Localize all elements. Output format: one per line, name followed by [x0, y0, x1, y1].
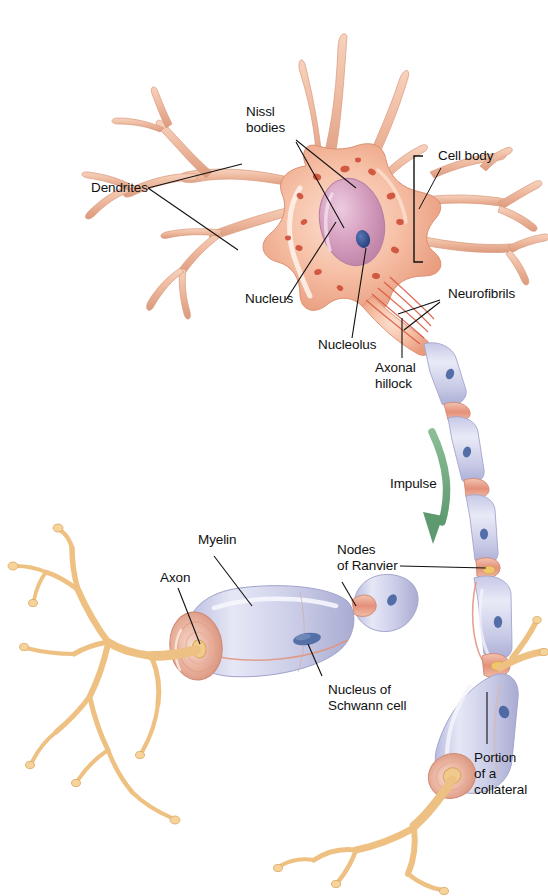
- schwann-cell-nucleus: [480, 529, 488, 540]
- myelin-segment: [424, 343, 466, 406]
- label-nodes-of-ranvier: Nodes of Ranvier: [337, 542, 398, 574]
- leader-dendrites-2: [148, 188, 238, 250]
- dendrite-branch: [498, 181, 542, 208]
- label-nucleolus: Nucleolus: [318, 337, 376, 353]
- dendrite-branch: [112, 118, 164, 132]
- label-neurofibrils: Neurofibrils: [448, 286, 515, 302]
- left-myelin-segment-group: [152, 574, 418, 683]
- label-impulse: Impulse: [390, 476, 437, 492]
- dendrite-branch: [147, 268, 184, 310]
- leader-nodes-1: [400, 566, 486, 568]
- label-portion-of-a-collateral: Portion of a collateral: [474, 750, 527, 798]
- node-of-ranvier-gap: [483, 566, 495, 574]
- label-dendrites: Dendrites: [91, 180, 148, 196]
- label-cell-body: Cell body: [438, 148, 493, 164]
- neuron-diagram-figure: Nissl bodies Dendrites Cell body Nucleus…: [0, 0, 548, 896]
- figure-caption-partial: [14, 876, 194, 896]
- label-myelin: Myelin: [198, 532, 236, 548]
- label-axonal-hillock: Axonal hillock: [375, 360, 416, 392]
- dendrite-branch: [179, 268, 190, 319]
- schwann-cell-nucleus: [494, 616, 502, 628]
- dendrite-branch: [498, 206, 537, 231]
- axon: [152, 650, 196, 656]
- axon-terminal-branches-bottom: [280, 828, 442, 890]
- dendrite-branch: [506, 250, 529, 285]
- label-nucleus-of-schwann-cell: Nucleus of Schwann cell: [328, 682, 406, 714]
- label-axon: Axon: [160, 570, 190, 586]
- dendrite-branch: [156, 120, 212, 178]
- dendrite-branch: [508, 234, 548, 252]
- label-nissl-bodies: Nissl bodies: [246, 104, 285, 136]
- axon-terminal-arbor-left: [16, 530, 172, 818]
- dendrite-branch: [418, 236, 518, 253]
- label-nucleus: Nucleus: [245, 291, 293, 307]
